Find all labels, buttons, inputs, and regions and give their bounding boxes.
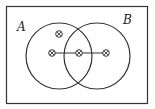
point-intersection	[76, 50, 83, 57]
set-a-label: A	[16, 20, 26, 34]
set-b-circle	[64, 23, 130, 89]
point-b-center	[103, 50, 110, 57]
venn-diagram: A B	[0, 0, 155, 109]
point-a-upper	[56, 31, 63, 38]
point-a-center	[49, 50, 56, 57]
set-b-label: B	[122, 13, 132, 27]
